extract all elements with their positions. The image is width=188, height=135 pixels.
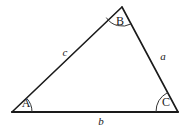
vertex-label-c: C	[162, 95, 170, 109]
side-label-b: b	[98, 115, 104, 127]
side-label-a: a	[160, 50, 166, 62]
triangle-diagram: A B C c a b	[0, 0, 188, 135]
vertex-label-a: A	[22, 96, 31, 110]
triangle-figure: A B C c a b	[0, 0, 188, 135]
figure-background	[0, 0, 188, 135]
side-label-c: c	[63, 46, 68, 58]
vertex-label-b: B	[116, 14, 124, 28]
